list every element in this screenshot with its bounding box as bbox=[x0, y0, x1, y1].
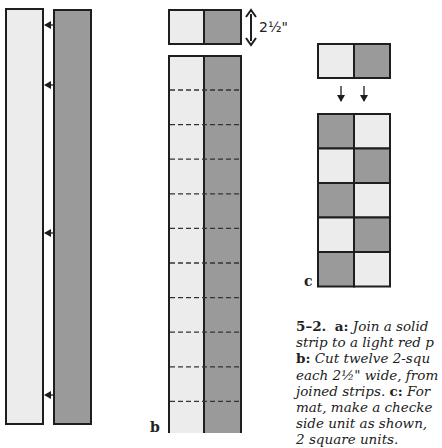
panel-label-c: c bbox=[304, 273, 313, 289]
dimension-label: 2½" bbox=[259, 19, 288, 35]
light-square bbox=[354, 252, 390, 287]
caption-line: 2 square units. bbox=[296, 431, 442, 447]
top-unit-light-square bbox=[318, 44, 354, 78]
panel-a bbox=[6, 9, 91, 424]
light-square bbox=[318, 149, 354, 184]
joined-light-strip bbox=[169, 56, 204, 433]
panel-b: 2½" b bbox=[150, 10, 288, 433]
unit-dark-square bbox=[204, 10, 241, 44]
panel-c: c bbox=[304, 44, 390, 289]
light-square bbox=[354, 183, 390, 218]
dark-square bbox=[354, 149, 390, 184]
caption-line: strip to a light red p bbox=[296, 334, 442, 350]
unit-light-square bbox=[169, 10, 204, 44]
light-square bbox=[318, 218, 354, 253]
caption-line: b: Cut twelve 2-squ bbox=[296, 350, 442, 366]
caption-line: each 2½" wide, from bbox=[296, 367, 442, 383]
dark-square bbox=[318, 183, 354, 218]
caption-line: mat, make a checke bbox=[296, 399, 442, 415]
light-strip bbox=[6, 9, 43, 424]
caption-line: joined strips. c: For bbox=[296, 383, 442, 399]
dark-strip bbox=[54, 10, 91, 424]
dark-square bbox=[318, 114, 354, 149]
checkerboard bbox=[318, 114, 390, 287]
joined-dark-strip bbox=[204, 56, 241, 433]
caption-line: 5–2. a: Join a solid bbox=[296, 318, 442, 334]
dark-square bbox=[354, 218, 390, 253]
join-arrows bbox=[45, 25, 53, 395]
caption-line: side unit as shown, bbox=[296, 415, 442, 431]
panel-label-b: b bbox=[150, 419, 160, 433]
top-unit-dark-square bbox=[354, 44, 390, 78]
light-square bbox=[354, 114, 390, 149]
figure-caption: 5–2. a: Join a solidstrip to a light red… bbox=[296, 318, 442, 448]
dark-square bbox=[318, 252, 354, 287]
